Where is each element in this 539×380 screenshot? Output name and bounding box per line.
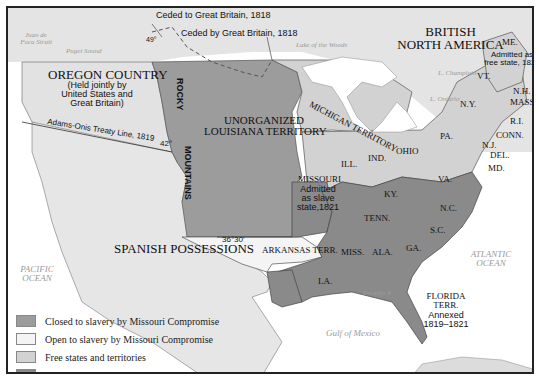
label-md: MD. <box>488 164 505 173</box>
label-puget-sound: Puget Sound <box>66 48 102 55</box>
florida-note-line2: 1819–1821 <box>422 320 470 329</box>
label-del: DEL. <box>490 151 510 160</box>
map-legend: Closed to slavery by Missouri Compromise… <box>16 312 219 374</box>
legend-label-slave: Slave states and territories <box>45 370 150 375</box>
label-lake-ontario: L. Ontario <box>430 96 460 103</box>
maine-note-line2: free state, 1820 <box>482 59 534 67</box>
label-lake-of-the-woods: Lake of the Woods <box>296 42 347 49</box>
legend-label-open: Open to slavery by Missouri Compromise <box>45 334 213 345</box>
label-conn: CONN. <box>496 131 524 140</box>
label-sc: S.C. <box>430 226 446 235</box>
label-nj: N.J. <box>482 141 497 150</box>
label-lake-champlain: L. Champlain <box>438 70 477 77</box>
label-gulf-of-mexico: Gulf of Mexico <box>326 329 380 338</box>
label-mass: MASS. <box>510 98 534 107</box>
label-ill: ILL. <box>341 160 357 169</box>
label-ceded-by: Ceded by Great Britain, 1818 <box>181 29 298 38</box>
label-unorganized-louisiana: UNORGANIZED LOUISIANA TERRITORY <box>204 115 324 137</box>
label-nc: N.C. <box>440 204 457 213</box>
label-ala: ALA. <box>372 248 393 257</box>
legend-item-slave: Slave states and territories <box>16 366 219 374</box>
label-miss: MISS. <box>341 248 364 257</box>
label-missouri: MISSOURI <box>298 175 341 184</box>
legend-swatch-closed <box>16 315 36 327</box>
label-mountains: MOUNTAINS <box>183 146 192 200</box>
label-atlantic-ocean: ATLANTIC OCEAN <box>468 250 514 268</box>
atlantic-line2: OCEAN <box>468 259 514 268</box>
label-ny: N.Y. <box>460 100 476 109</box>
label-lat-42: 42° <box>160 140 172 148</box>
legend-item-open: Open to slavery by Missouri Compromise <box>16 330 219 348</box>
legend-label-free: Free states and territories <box>45 352 146 363</box>
legend-swatch-slave <box>16 369 36 374</box>
pacific-line2: OCEAN <box>14 274 60 283</box>
legend-swatch-free <box>16 351 36 363</box>
unorganized-line2: LOUISIANA TERRITORY <box>204 126 324 137</box>
legend-item-free: Free states and territories <box>16 348 219 366</box>
label-ga: GA. <box>406 244 421 253</box>
label-florida-note: Annexed 1819–1821 <box>422 311 470 329</box>
legend-swatch-open <box>16 333 36 345</box>
label-lat-49: 49° <box>146 36 157 43</box>
label-tenn: TENN. <box>364 214 390 223</box>
label-va: VA. <box>438 175 452 184</box>
label-pa: PA. <box>440 132 453 141</box>
label-ky: KY. <box>384 190 398 199</box>
label-rocky: ROCKY <box>175 78 184 111</box>
legend-item-closed: Closed to slavery by Missouri Compromise <box>16 312 219 330</box>
label-ri: R.I. <box>510 117 524 126</box>
label-british-north-america: BRITISH NORTH AMERICA <box>393 25 508 51</box>
label-missouri-note: Admitted as slave state,1821 <box>297 185 339 212</box>
florida-line2: TERR. <box>422 301 470 310</box>
label-perdido-river: Perdido R. <box>363 290 393 297</box>
label-nh: N.H. <box>513 87 531 96</box>
label-ceded-to: Ceded to Great Britain, 1818 <box>156 11 271 20</box>
label-arkansas-territory: ARKANSAS TERR. <box>262 246 338 255</box>
label-vt: VT. <box>477 72 491 81</box>
label-maine: ME. <box>502 38 518 47</box>
label-pacific-ocean: PACIFIC OCEAN <box>14 265 60 283</box>
missouri-note-line3: state,1821 <box>297 203 339 212</box>
cuba-island <box>412 357 534 374</box>
label-juan-de-fuca: Juan de Fuca Strait <box>16 32 56 46</box>
label-maine-note: Admitted as free state, 1820 <box>482 51 534 67</box>
oregon-note-line3: Great Britain) <box>48 99 146 108</box>
label-oregon-note: (Held jointly by United States and Great… <box>48 81 146 108</box>
label-ind: IND. <box>368 154 386 163</box>
juan-de-fuca-line2: Fuca Strait <box>16 39 56 46</box>
label-lat-36-30: 36°30' <box>222 236 245 244</box>
label-la: LA. <box>318 277 332 286</box>
legend-label-closed: Closed to slavery by Missouri Compromise <box>45 316 219 327</box>
label-ohio: OHIO <box>396 147 419 156</box>
map-frame: Ceded to Great Britain, 1818 Ceded by Gr… <box>6 6 534 374</box>
label-florida-territory: FLORIDA TERR. <box>422 292 470 310</box>
